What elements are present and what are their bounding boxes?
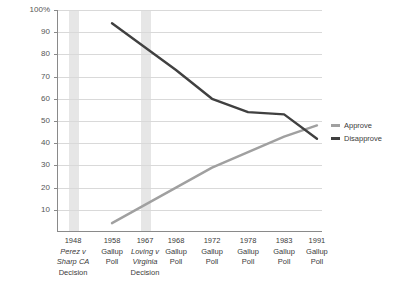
y-tick-label-30: 30 bbox=[0, 161, 50, 169]
x-label-line2: Gallup bbox=[291, 247, 343, 258]
y-tick-label-70: 70 bbox=[0, 73, 50, 81]
x-axis-label-1991: 1991GallupPoll bbox=[291, 236, 343, 268]
y-tick-label-100: 100% bbox=[0, 6, 50, 14]
x-label-line3: Poll bbox=[291, 257, 343, 268]
y-tick-label-10: 10 bbox=[0, 206, 50, 214]
series-line-approve bbox=[112, 125, 317, 223]
legend-label: Disapprove bbox=[344, 134, 382, 143]
series-layer bbox=[57, 10, 322, 232]
y-tick-label-60: 60 bbox=[0, 95, 50, 103]
x-label-line4: Decision bbox=[119, 268, 171, 279]
y-tick-label-20: 20 bbox=[0, 184, 50, 192]
legend-item-approve[interactable]: Approve bbox=[331, 119, 393, 132]
legend-label: Approve bbox=[344, 121, 372, 130]
x-label-line4: Decision bbox=[47, 268, 99, 279]
legend-item-disapprove[interactable]: Disapprove bbox=[331, 132, 393, 145]
chart-root: 100%908070605040302010 1948Perez vSharp … bbox=[0, 0, 394, 296]
legend: ApproveDisapprove bbox=[331, 119, 393, 145]
x-label-year: 1991 bbox=[291, 236, 343, 247]
y-tick-label-80: 80 bbox=[0, 50, 50, 58]
legend-swatch-icon bbox=[331, 137, 340, 140]
x-axis-labels: 1948Perez vSharp CADecision1958GallupPol… bbox=[57, 236, 322, 294]
y-tick-label-50: 50 bbox=[0, 117, 50, 125]
series-line-disapprove bbox=[112, 23, 317, 138]
legend-swatch-icon bbox=[331, 124, 340, 127]
y-tick-label-90: 90 bbox=[0, 28, 50, 36]
y-tick-label-40: 40 bbox=[0, 139, 50, 147]
